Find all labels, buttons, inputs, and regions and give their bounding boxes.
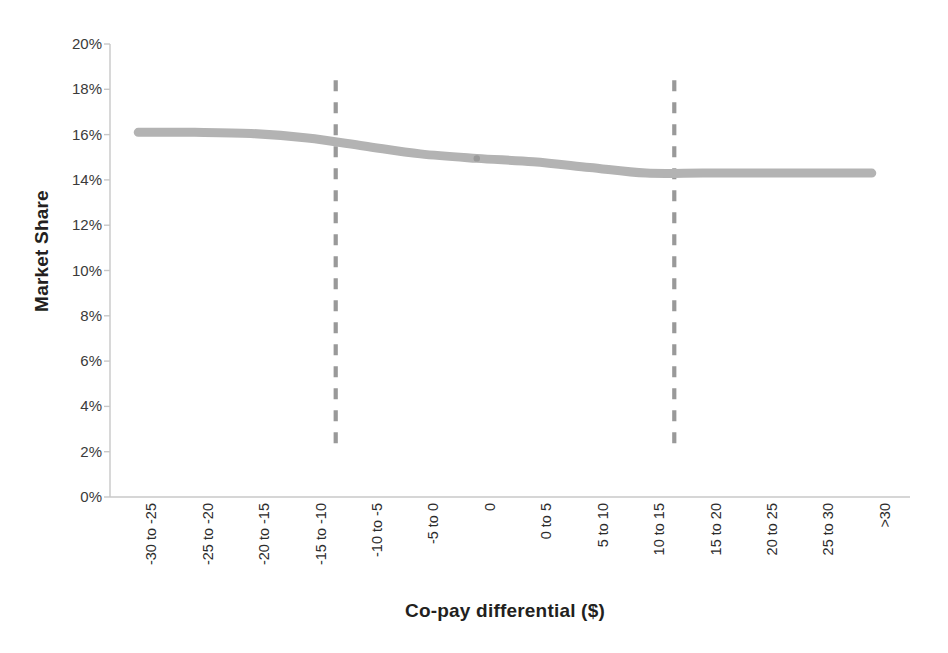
series-data-point-marker <box>474 155 480 161</box>
threshold-annotation-lines <box>336 80 675 449</box>
y-axis-tick-marks <box>104 44 110 497</box>
x-axis-title: Co-pay differential ($) <box>110 600 900 622</box>
axis-lines <box>110 44 910 497</box>
chart-container: Market Share 0%2%4%6%8%10%12%14%16%18%20… <box>0 0 948 653</box>
series-line-market-share <box>138 132 872 173</box>
data-series-group <box>138 132 872 173</box>
plot-area <box>0 0 948 653</box>
